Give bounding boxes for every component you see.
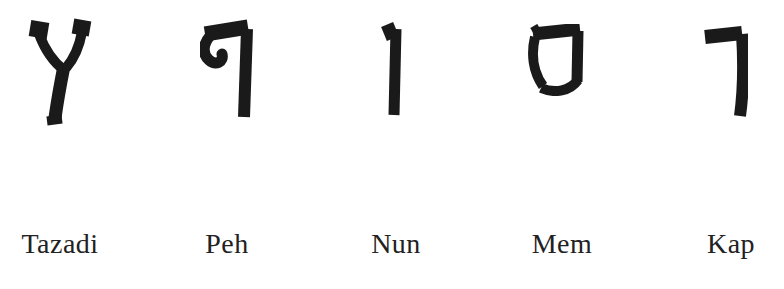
final-mem-glyph-icon [528, 24, 584, 96]
letter-label-peh: Peh [205, 229, 249, 260]
letter-label-mem: Mem [532, 229, 593, 260]
letter-label-nun: Nun [371, 229, 421, 260]
final-peh-glyph-icon [200, 18, 255, 123]
final-kaf-glyph-icon [702, 24, 748, 122]
final-nun-glyph-icon [380, 21, 404, 121]
letter-label-kap: Kap [707, 229, 755, 260]
hebrew-letter-chart: Tazadi Peh Nun Mem K [0, 0, 784, 289]
final-tsadi-glyph-icon [26, 18, 93, 127]
letter-label-tazadi: Tazadi [21, 229, 98, 260]
